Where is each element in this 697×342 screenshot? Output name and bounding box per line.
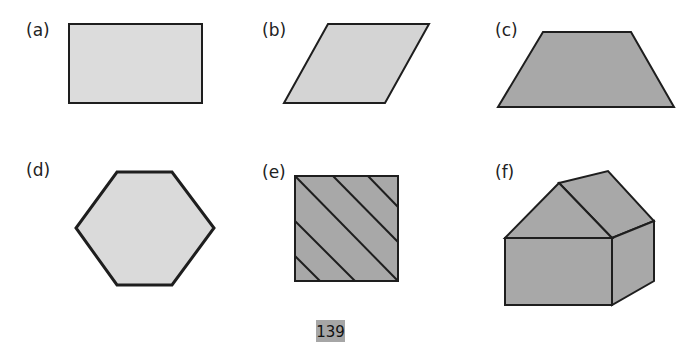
house-shape-f <box>505 171 654 305</box>
rectangle-shape-a <box>69 24 202 103</box>
trapezium-shape-c <box>498 32 674 107</box>
parallelogram-shape-b <box>284 24 429 103</box>
page-number: 139 <box>316 320 345 342</box>
hexagon-shape-d <box>76 172 214 285</box>
shapes-canvas <box>0 0 697 342</box>
square-shape-e <box>295 176 398 281</box>
